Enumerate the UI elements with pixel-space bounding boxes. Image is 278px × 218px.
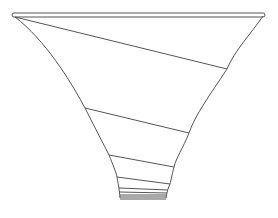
funnel-segment-line xyxy=(117,177,170,184)
funnel-drawing xyxy=(0,0,278,218)
funnel-left-edge xyxy=(15,17,120,198)
funnel-diagram xyxy=(0,0,278,218)
funnel-segment-lines xyxy=(15,17,227,199)
funnel-segment-line xyxy=(119,192,167,193)
funnel-right-edge xyxy=(166,16,263,198)
funnel-segment-line xyxy=(119,188,168,190)
funnel-segment-line xyxy=(85,108,189,133)
funnel-segment-line xyxy=(109,155,174,167)
funnel-rim xyxy=(12,13,265,17)
funnel-segment-line xyxy=(15,17,227,69)
